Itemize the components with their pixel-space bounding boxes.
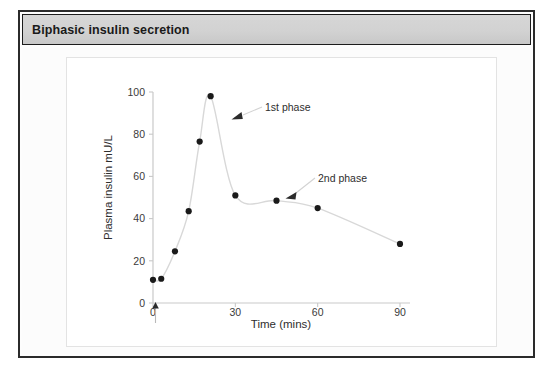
data-point xyxy=(158,276,164,282)
y-tick-label: 60 xyxy=(133,170,145,182)
y-tick-label: 0 xyxy=(139,297,145,309)
data-point xyxy=(150,277,156,283)
data-point xyxy=(273,198,279,204)
y-axis-title: Plasma insulin mU/L xyxy=(102,135,114,240)
y-tick-label: 40 xyxy=(133,212,145,224)
annotation-2nd-phase-label: 2nd phase xyxy=(318,172,367,184)
annotation-1st-phase: 1st phase xyxy=(232,101,311,120)
data-point xyxy=(232,192,238,198)
x-tick-label: 90 xyxy=(394,306,406,318)
data-point-markers xyxy=(150,93,403,283)
annotation-2nd-phase: 2nd phase xyxy=(286,172,368,200)
x-tick-label: 60 xyxy=(312,306,324,318)
data-curve xyxy=(153,95,400,281)
figure-container: Biphasic insulin secretion 020406080100 … xyxy=(0,0,551,374)
annotation-1st-phase-label: 1st phase xyxy=(265,101,311,113)
y-axis-ticks: 020406080100 xyxy=(127,86,153,309)
data-point xyxy=(208,93,214,99)
insulin-secretion-chart: 020406080100 0306090 Plasma insulin mU/L… xyxy=(0,0,551,374)
x-tick-label: 30 xyxy=(229,306,241,318)
y-tick-label: 100 xyxy=(127,86,145,98)
data-point xyxy=(172,248,178,254)
data-point xyxy=(197,138,203,144)
data-point xyxy=(397,241,403,247)
x-axis-ticks: 0306090 xyxy=(150,303,406,318)
data-point xyxy=(315,205,321,211)
x-axis-title: Time (mins) xyxy=(251,318,311,330)
data-point xyxy=(186,208,192,214)
y-tick-label: 20 xyxy=(133,255,145,267)
y-tick-label: 80 xyxy=(133,128,145,140)
